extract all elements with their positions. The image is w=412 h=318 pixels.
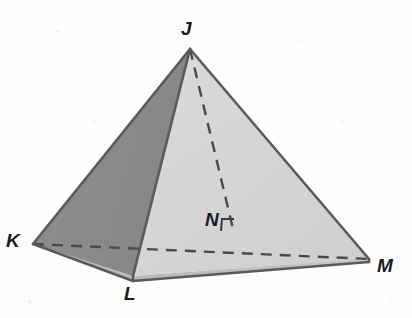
vertex-label-l: L (124, 284, 136, 303)
vertex-label-k: K (6, 231, 20, 250)
pyramid-figure-canvas: J K L M N (0, 0, 412, 318)
vertex-label-m: M (377, 256, 393, 275)
vertex-label-n: N (205, 210, 219, 229)
vertex-label-j: J (181, 19, 192, 38)
pyramid-diagram (0, 0, 412, 318)
